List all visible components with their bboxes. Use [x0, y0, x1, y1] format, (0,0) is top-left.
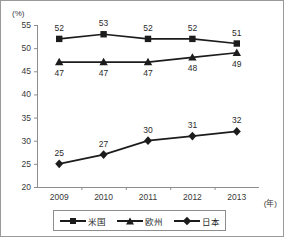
data-point-value-label: 52 [135, 23, 161, 33]
data-series-lines [37, 25, 259, 187]
x-axis-unit-label: (年) [264, 197, 277, 208]
x-axis-tick-2013: 2013 [217, 192, 257, 202]
legend-label: 欧州 [145, 215, 163, 227]
y-axis-tick-45: 45 [11, 66, 31, 76]
y-axis-tick-25: 25 [11, 159, 31, 169]
y-axis-tick-50: 50 [11, 43, 31, 53]
data-point-value-label: 25 [46, 148, 72, 158]
data-point-value-label: 53 [91, 18, 117, 28]
x-axis-tick-2009: 2009 [39, 192, 79, 202]
triangle-marker-icon [117, 215, 143, 226]
data-point-marker [144, 136, 152, 145]
chart-figure: (%) (年) 2025303540455055 200920102011201… [0, 0, 284, 237]
x-axis-tick-2011: 2011 [128, 192, 168, 202]
legend-label: 米国 [88, 215, 106, 227]
data-point-value-label: 32 [224, 115, 250, 125]
y-axis-tick-40: 40 [11, 89, 31, 99]
data-point-marker [55, 159, 63, 168]
data-point-marker [56, 36, 62, 42]
square-marker-icon [60, 215, 86, 226]
y-axis-tick-30: 30 [11, 136, 31, 146]
data-point-marker [188, 132, 196, 141]
legend-entry-米国[interactable]: 米国 [60, 215, 106, 227]
legend-entry-日本[interactable]: 日本 [174, 215, 220, 227]
data-point-marker [233, 127, 241, 136]
x-axis-tick-2010: 2010 [84, 192, 124, 202]
legend-label: 日本 [202, 215, 220, 227]
data-point-marker [100, 150, 108, 159]
diamond-marker-icon [174, 215, 200, 226]
data-point-value-label: 27 [91, 139, 117, 149]
legend-entry-欧州[interactable]: 欧州 [117, 215, 163, 227]
data-point-value-label: 47 [135, 68, 161, 78]
data-point-value-label: 52 [179, 23, 205, 33]
data-point-value-label: 31 [179, 120, 205, 130]
x-axis-tick-2012: 2012 [172, 192, 212, 202]
data-point-marker [145, 36, 151, 42]
data-point-value-label: 49 [224, 59, 250, 69]
y-axis-tick-20: 20 [11, 182, 31, 192]
data-point-marker [100, 31, 106, 37]
data-point-marker [189, 36, 195, 42]
chart-legend: 米国欧州日本 [53, 210, 226, 231]
data-point-value-label: 47 [46, 68, 72, 78]
y-axis-tick-35: 35 [11, 113, 31, 123]
y-axis-tick-55: 55 [11, 20, 31, 30]
data-point-value-label: 30 [135, 125, 161, 135]
plot-area [37, 25, 259, 187]
data-point-value-label: 47 [91, 68, 117, 78]
y-axis-unit-label: (%) [12, 9, 24, 18]
data-point-value-label: 48 [179, 63, 205, 73]
data-point-marker [234, 40, 240, 46]
data-point-value-label: 52 [46, 23, 72, 33]
data-point-value-label: 51 [224, 28, 250, 38]
